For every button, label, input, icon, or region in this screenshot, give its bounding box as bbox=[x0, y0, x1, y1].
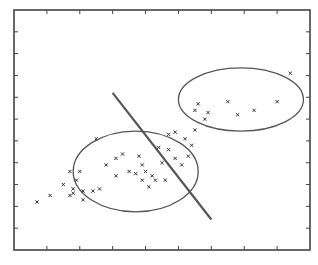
cluster-a-point bbox=[134, 172, 137, 175]
cluster-a-point bbox=[154, 179, 157, 182]
cluster-a-boundary bbox=[73, 131, 198, 212]
cluster-a-point bbox=[157, 146, 160, 149]
cluster-a-point bbox=[78, 170, 81, 173]
cluster-a-point bbox=[104, 163, 107, 166]
cluster-a-point bbox=[81, 189, 84, 192]
cluster-b-point bbox=[236, 113, 239, 116]
cluster-a-point bbox=[141, 179, 144, 182]
cluster-b-point bbox=[197, 102, 200, 105]
cluster-a-point bbox=[144, 170, 147, 173]
cluster-b-point bbox=[226, 100, 229, 103]
cluster-a-point bbox=[190, 144, 193, 147]
cluster-a-point bbox=[81, 198, 84, 201]
cluster-a-point bbox=[151, 174, 154, 177]
axis-ticks bbox=[14, 10, 310, 250]
cluster-b-point bbox=[289, 72, 292, 75]
cluster-a-point bbox=[137, 155, 140, 158]
cluster-a-point bbox=[164, 179, 167, 182]
cluster-a-point bbox=[62, 183, 65, 186]
cluster-a-point bbox=[187, 155, 190, 158]
cluster-a-point bbox=[49, 194, 52, 197]
cluster-b-boundary bbox=[178, 68, 303, 131]
cluster-b-point bbox=[193, 128, 196, 131]
cluster-a-point bbox=[121, 152, 124, 155]
plot-frame bbox=[14, 10, 310, 250]
scatter-chart bbox=[0, 0, 318, 265]
cluster-a-point bbox=[72, 192, 75, 195]
cluster-a-point bbox=[98, 187, 101, 190]
cluster-a-point bbox=[114, 157, 117, 160]
cluster-a-point bbox=[160, 161, 163, 164]
cluster-b-point bbox=[276, 100, 279, 103]
cluster-a-point bbox=[72, 187, 75, 190]
cluster-a-point bbox=[167, 133, 170, 136]
cluster-a-point bbox=[180, 163, 183, 166]
cluster-b-point bbox=[174, 131, 177, 134]
cluster-a-point bbox=[147, 185, 150, 188]
cluster-a-point bbox=[68, 170, 71, 173]
cluster-a-point bbox=[35, 200, 38, 203]
cluster-b-point bbox=[193, 109, 196, 112]
cluster-b-point bbox=[252, 109, 255, 112]
cluster-a-point bbox=[114, 174, 117, 177]
data-points bbox=[35, 72, 291, 204]
cluster-b-point bbox=[203, 117, 206, 120]
cluster-a-point bbox=[75, 179, 78, 182]
cluster-a-point bbox=[91, 189, 94, 192]
cluster-a-point bbox=[128, 170, 131, 173]
cluster-a-point bbox=[68, 194, 71, 197]
cluster-a-point bbox=[174, 157, 177, 160]
cluster-b-point bbox=[183, 137, 186, 140]
cluster-a-point bbox=[141, 163, 144, 166]
cluster-a-point bbox=[167, 148, 170, 151]
cluster-b-point bbox=[206, 111, 209, 114]
